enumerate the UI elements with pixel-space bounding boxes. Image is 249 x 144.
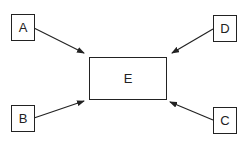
node-e-label: E (124, 71, 133, 86)
arrow-c-to-e (170, 102, 213, 120)
node-c-label: C (220, 113, 229, 128)
node-a-label: A (19, 20, 28, 35)
node-a: A (11, 14, 35, 41)
arrow-d-to-e (172, 29, 213, 53)
node-c: C (213, 107, 237, 134)
diagram-canvas: A D B C E (0, 0, 249, 144)
node-e-center: E (89, 57, 167, 100)
node-b: B (11, 105, 35, 132)
arrow-a-to-e (34, 28, 84, 53)
arrow-b-to-e (34, 101, 84, 118)
node-d-label: D (220, 21, 229, 36)
node-b-label: B (19, 111, 28, 126)
node-d: D (213, 15, 237, 42)
